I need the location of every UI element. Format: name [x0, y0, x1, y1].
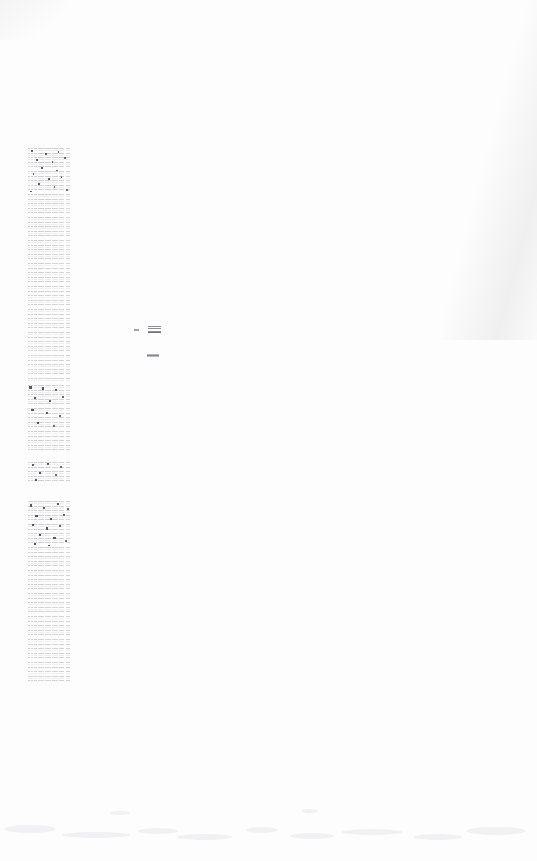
ink-speckle	[28, 501, 70, 547]
stamp-mark-underline	[148, 332, 161, 333]
tick-mark-content	[133, 328, 134, 329]
text-block-1	[28, 148, 70, 381]
ink-speckle	[28, 462, 70, 483]
text-block-2	[28, 385, 70, 450]
text-block-4	[28, 501, 70, 683]
page-background	[0, 0, 537, 861]
dash-mark-content	[146, 353, 147, 354]
scanned-page	[0, 0, 537, 861]
ink-speckle	[28, 148, 70, 194]
dash-mark	[147, 354, 159, 357]
text-block-3	[28, 462, 70, 483]
stamp-mark	[148, 326, 161, 333]
tick-mark	[134, 329, 139, 331]
text-column	[28, 148, 70, 683]
ink-speckle	[28, 385, 70, 431]
